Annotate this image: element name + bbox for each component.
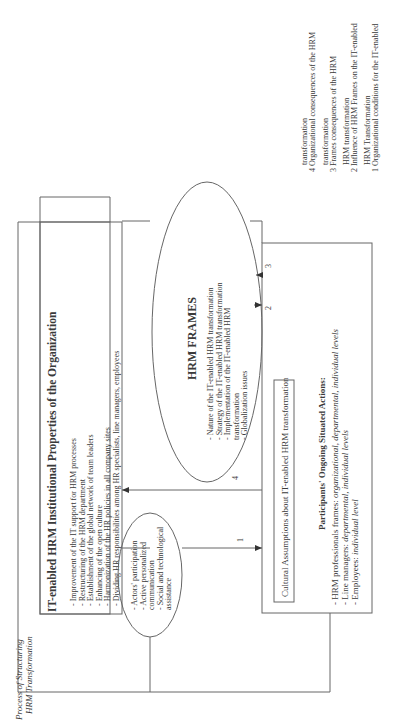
conditions-item: communication [147, 560, 156, 610]
process-label: Process of Structuring HRM Transformatio… [14, 636, 34, 721]
participants-item: - HRM professionals frames: organization… [330, 329, 340, 605]
hrm-frames-title: HRM FRAMES [185, 297, 199, 380]
legend: 1 Organizational conditions for the IT-e… [300, 23, 380, 172]
institutional-properties: IT-enabled HRM Institutional Properties … [46, 311, 121, 612]
legend-line: transformation [300, 118, 309, 165]
legend-line: 2 Influence of HRM Frames on the IT-enab… [350, 23, 359, 172]
process-label-line: Process of Structuring [14, 639, 24, 721]
participants-title: Participants' Ongoing Situated Actions: [317, 377, 327, 530]
hrm-transformation-diagram: 1 Organizational conditions for the IT-e… [0, 0, 401, 724]
conditions-item: assistance [164, 578, 173, 610]
arrow-label-1: 1 [236, 538, 245, 542]
process-bottom-line [18, 613, 330, 692]
hrm-frames-item: - Globalization issues [240, 371, 249, 440]
process-label-line: HRM Transformation [24, 636, 34, 715]
legend-line: HRM Transformation [363, 95, 372, 165]
participants: Participants' Ongoing Situated Actions: … [317, 329, 360, 605]
participants-item: - Line managers: departmental, individua… [340, 430, 350, 605]
arrow-label-2: 2 [264, 306, 273, 310]
participants-item: - Employees: individual level [350, 499, 360, 605]
institutional-title: IT-enabled HRM Institutional Properties … [46, 311, 59, 612]
legend-line: 3 Frames consequences of the HRM [329, 56, 338, 172]
cultural-assumptions: Cultural Assumptions about IT-enabled HR… [280, 377, 290, 597]
conditions-item: - Actors' participation [130, 541, 139, 610]
legend-line: 1 Organizational conditions for the IT-e… [371, 24, 380, 172]
process-frame [18, 197, 110, 692]
connector-line [250, 221, 262, 243]
legend-line: 4 Organizational consequences of the HRM [308, 32, 317, 172]
conditions: - Actors' participation - Active persona… [130, 526, 173, 610]
arrow-label-3: 3 [264, 264, 273, 268]
institutional-item: - Dividing HR responsibilities among HR … [112, 351, 121, 606]
arrow-label-4: 4 [231, 476, 240, 480]
hrm-frames: HRM FRAMES - Nature of the IT-enabled HR… [185, 283, 249, 440]
legend-line: transformation [321, 118, 330, 165]
legend-line: HRM transformation [342, 98, 351, 165]
